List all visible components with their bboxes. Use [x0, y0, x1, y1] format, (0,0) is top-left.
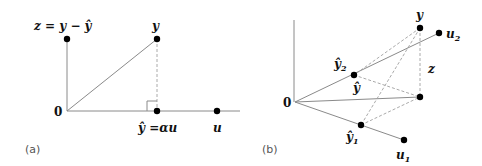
u1-point: [401, 137, 407, 143]
yhat-point: [154, 108, 160, 114]
yhat1-point: [358, 122, 364, 128]
panel-b-caption: (b): [262, 143, 278, 156]
y-point: [417, 25, 423, 31]
y-label: y: [151, 19, 160, 33]
u1-label: u1: [396, 148, 410, 164]
u2-axis-line: [295, 33, 439, 102]
u2-label: u2: [446, 27, 461, 43]
z-label: z = y − ŷ: [33, 19, 93, 33]
yhat-point: [417, 94, 423, 100]
dashed-y-to-yhat2: [354, 28, 420, 75]
dashed-y-to-yhat1: [361, 28, 420, 125]
origin-label: 0: [54, 105, 62, 119]
panel-a-caption: (a): [25, 143, 40, 156]
u-point: [214, 108, 220, 114]
z-label: z: [427, 62, 436, 76]
projection-diagram: z = y − ŷ y 0 ŷ =αu u (a) y u2 ŷ2 ŷ z 0: [0, 0, 482, 166]
yhat2-label: ŷ2: [333, 57, 347, 73]
dashed-yhat2-to-yhat: [354, 75, 420, 97]
yhat-vector-line: [295, 97, 420, 102]
y-point: [154, 36, 160, 42]
yhat-label: ŷ: [352, 81, 361, 95]
y-vector-line: [67, 39, 157, 111]
panel-a: z = y − ŷ y 0 ŷ =αu u (a): [25, 19, 240, 156]
yhat-label: ŷ =αu: [137, 121, 177, 135]
z-point: [64, 36, 70, 42]
y-label: y: [415, 8, 424, 22]
origin-label: 0: [283, 96, 291, 110]
yhat2-point: [351, 72, 357, 78]
u2-point: [436, 30, 442, 36]
panel-b: y u2 ŷ2 ŷ z 0 ŷ1 u1 (b): [262, 8, 461, 164]
u-label: u: [213, 121, 222, 135]
yhat1-label: ŷ1: [345, 130, 359, 146]
